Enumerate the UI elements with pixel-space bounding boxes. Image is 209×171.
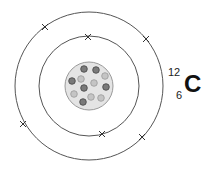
atomic-number: 6 — [176, 89, 182, 101]
proton-icon — [98, 95, 105, 102]
nucleus — [65, 62, 113, 110]
proton-icon — [91, 80, 98, 87]
proton-icon — [102, 73, 109, 80]
mass-number: 12 — [168, 66, 180, 78]
electron-icon — [139, 134, 145, 140]
neutron-icon — [93, 67, 100, 74]
proton-icon — [88, 94, 95, 101]
neutron-icon — [103, 84, 110, 91]
proton-icon — [71, 91, 78, 98]
element-symbol: C — [184, 70, 201, 98]
atom-diagram — [0, 0, 209, 171]
neutron-icon — [81, 66, 88, 73]
neutron-icon — [80, 99, 87, 106]
electron-icon — [143, 36, 149, 42]
electron-icon — [85, 34, 91, 40]
neutron-icon — [69, 78, 76, 85]
electron-icon — [42, 24, 48, 30]
neutron-icon — [81, 85, 88, 92]
proton-icon — [78, 76, 85, 83]
